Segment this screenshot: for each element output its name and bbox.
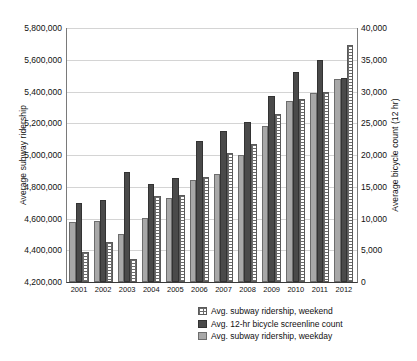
legend-swatch-weekend-icon [198, 307, 207, 315]
y-axis-left-tick-label: 5,000,000 [24, 151, 62, 160]
y-axis-right-tick-label: 30,000 [361, 88, 387, 97]
bar-weekend-2004[interactable] [154, 196, 160, 282]
legend-label: Avg. subway ridership, weekend [211, 306, 333, 316]
bar-group-2010 [284, 28, 308, 282]
y-axis-left-tick-label: 4,200,000 [24, 278, 62, 287]
bar-weekend-2008[interactable] [251, 144, 257, 282]
bar-group-2002 [91, 28, 115, 282]
y-axis-right-tick-label: 15,000 [361, 183, 387, 192]
legend-swatch-weekday-icon [198, 332, 207, 340]
x-axis-tick-2005: 2005 [163, 285, 187, 294]
bar-weekend-2009[interactable] [275, 114, 281, 282]
bar-weekend-2002[interactable] [106, 242, 112, 282]
bar-group-2011 [308, 28, 332, 282]
x-axis-tick-2003: 2003 [115, 285, 139, 294]
y-axis-left-tick-label: 5,800,000 [24, 24, 62, 33]
y-axis-left-tick-label: 5,400,000 [24, 88, 62, 97]
y-axis-right-tick-label: 20,000 [361, 151, 387, 160]
legend-item-bicycle[interactable]: Avg. 12-hr bicycle screenline count [198, 319, 343, 329]
bar-group-2007 [211, 28, 235, 282]
bar-group-2003 [115, 28, 139, 282]
x-axis-tick-2006: 2006 [187, 285, 211, 294]
legend-label: Avg. subway ridership, weekday [211, 331, 332, 341]
y-axis-right-tick-label: 0 [361, 278, 366, 287]
bar-chart: Average subway ridership Average bicycle… [0, 0, 417, 361]
y-axis-left-tick-label: 5,600,000 [24, 56, 62, 65]
x-axis-tick-2002: 2002 [91, 285, 115, 294]
y-axis-left-tick-label: 4,400,000 [24, 246, 62, 255]
bar-group-2008 [236, 28, 260, 282]
x-axis-tick-2008: 2008 [236, 285, 260, 294]
y-axis-right-tick-label: 5,000 [361, 246, 382, 255]
bar-group-2009 [260, 28, 284, 282]
x-axis-tick-2009: 2009 [260, 285, 284, 294]
y-axis-left-tick-label: 4,600,000 [24, 215, 62, 224]
y-axis-right-tick-label: 25,000 [361, 119, 387, 128]
x-axis-tick-2010: 2010 [284, 285, 308, 294]
legend-label: Avg. 12-hr bicycle screenline count [211, 319, 343, 329]
bar-weekend-2010[interactable] [299, 99, 305, 282]
bar-groups [67, 28, 356, 282]
y-axis-right-tick-label: 35,000 [361, 56, 387, 65]
bar-weekend-2011[interactable] [323, 92, 329, 283]
bar-group-2001 [67, 28, 91, 282]
y-axis-left-tick-label: 4,800,000 [24, 183, 62, 192]
x-axis-tick-2004: 2004 [139, 285, 163, 294]
bar-group-2006 [187, 28, 211, 282]
bar-weekend-2005[interactable] [179, 195, 185, 282]
bar-group-2005 [163, 28, 187, 282]
x-axis-tick-2012: 2012 [332, 285, 356, 294]
y-axis-right-title: Average bicycle count (12 hr) [390, 80, 400, 230]
y-axis-right-tick-label: 40,000 [361, 24, 387, 33]
legend-swatch-bicycle-icon [198, 320, 207, 328]
bar-group-2004 [139, 28, 163, 282]
bar-weekend-2007[interactable] [227, 153, 233, 282]
x-axis-ticks: 2001200220032004200520062007200820092010… [67, 285, 356, 294]
x-axis-tick-2011: 2011 [308, 285, 332, 294]
bar-weekend-2001[interactable] [82, 252, 88, 282]
y-axis-left-tick-label: 5,200,000 [24, 119, 62, 128]
bar-weekend-2003[interactable] [130, 259, 136, 282]
bar-weekend-2012[interactable] [347, 45, 353, 282]
x-axis-tick-2007: 2007 [211, 285, 235, 294]
legend-item-weekday[interactable]: Avg. subway ridership, weekday [198, 331, 343, 341]
y-axis-right-tick-label: 10,000 [361, 215, 387, 224]
bar-weekend-2006[interactable] [203, 177, 209, 282]
legend-item-weekend[interactable]: Avg. subway ridership, weekend [198, 306, 343, 316]
chart-legend: Avg. subway ridership, weekendAvg. 12-hr… [198, 306, 343, 341]
bar-group-2012 [332, 28, 356, 282]
x-axis-tick-2001: 2001 [67, 285, 91, 294]
